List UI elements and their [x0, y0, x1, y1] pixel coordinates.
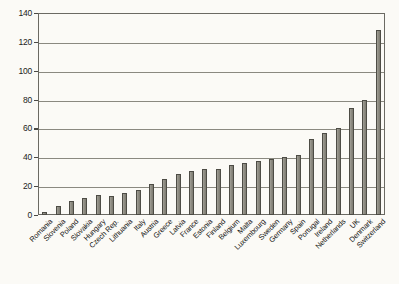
bar	[336, 128, 341, 215]
bar	[349, 108, 354, 215]
y-axis-tick-label: 40	[2, 152, 32, 162]
x-axis-labels: RomaniaSloveniaPolandSlovakiaHungaryCzec…	[38, 217, 385, 284]
bar	[282, 157, 287, 215]
bar	[202, 169, 207, 215]
bar	[162, 179, 167, 215]
y-axis-tick-label: 140	[2, 8, 32, 18]
bar	[96, 195, 101, 215]
y-axis-tick-label: 100	[2, 66, 32, 76]
bar	[82, 198, 87, 215]
bar	[136, 190, 141, 215]
bar	[229, 165, 234, 215]
y-axis-tick-label: 120	[2, 37, 32, 47]
y-axis-tick-mark	[34, 215, 38, 216]
bar	[376, 30, 381, 215]
bar	[322, 133, 327, 215]
y-axis-tick-label: 20	[2, 181, 32, 191]
bar	[176, 174, 181, 215]
bar	[296, 155, 301, 215]
bar	[256, 161, 261, 215]
bar	[122, 193, 127, 215]
bar	[242, 163, 247, 215]
bar	[269, 159, 274, 215]
bar	[56, 206, 61, 215]
bar	[362, 100, 367, 215]
bar-chart: 020406080100120140 RomaniaSloveniaPoland…	[0, 0, 399, 284]
bar	[149, 184, 154, 215]
bar	[216, 169, 221, 215]
y-axis-tick-label: 0	[2, 210, 32, 220]
bar	[42, 212, 47, 215]
bar-series	[38, 13, 385, 215]
bar	[69, 201, 74, 215]
y-axis-tick-label: 80	[2, 95, 32, 105]
bar	[109, 196, 114, 215]
y-axis-tick-label: 60	[2, 123, 32, 133]
bar	[309, 139, 314, 215]
bar	[189, 171, 194, 215]
